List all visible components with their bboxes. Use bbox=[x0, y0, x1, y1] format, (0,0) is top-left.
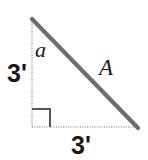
vertical-leg-label: 3' bbox=[7, 61, 27, 86]
horizontal-leg-label: 3' bbox=[71, 133, 91, 158]
right-angle-marker bbox=[32, 109, 50, 127]
hypotenuse-label-A: A bbox=[99, 56, 113, 79]
right-triangle-figure: a A 3' 3' bbox=[0, 0, 148, 160]
angle-label-a: a bbox=[35, 39, 46, 61]
hypotenuse-line bbox=[32, 19, 138, 128]
